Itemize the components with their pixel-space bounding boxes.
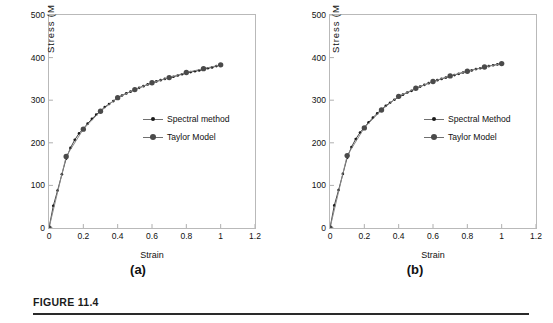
- legend-a: Spectral method Taylor Model: [143, 115, 230, 151]
- legend-item-spectral-a: Spectral method: [143, 115, 230, 124]
- x-tick-a-6: 1.2: [249, 232, 261, 240]
- x-axis-title-b: Strain: [421, 250, 445, 260]
- legend-marker-small-dot-icon: [424, 115, 444, 124]
- figure-caption: FIGURE 11.4: [33, 296, 99, 308]
- legend-label-spectral-b: Spectral Method: [448, 115, 511, 124]
- y-tick-a-0: 0: [40, 224, 45, 232]
- legend-label-spectral-a: Spectral method: [167, 115, 230, 124]
- legend-label-taylor-b: Taylor Model: [448, 133, 497, 142]
- y-tick-a-4: 400: [31, 54, 45, 62]
- sub-caption-a: (a): [130, 262, 146, 277]
- legend-marker-large-dot-icon: [424, 133, 444, 142]
- y-tick-b-2: 200: [312, 139, 326, 147]
- y-tick-a-5: 500: [31, 11, 45, 19]
- legend-marker-small-dot-icon: [143, 115, 163, 124]
- x-tick-a-0: 0: [47, 232, 52, 240]
- figure-11-4: Stress (M P a) 0 100 200 300 400 500 0 0…: [0, 0, 553, 323]
- figure-caption-area: FIGURE 11.4: [0, 296, 553, 323]
- x-tick-b-6: 1.2: [530, 232, 542, 240]
- y-tick-b-3: 300: [312, 96, 326, 104]
- legend-item-taylor-b: Taylor Model: [424, 133, 511, 142]
- legend-label-taylor-a: Taylor Model: [167, 133, 216, 142]
- caption-divider: [33, 313, 529, 315]
- x-axis-title-a: Strain: [140, 250, 164, 260]
- x-tick-b-4: 0.8: [461, 232, 473, 240]
- legend-item-spectral-b: Spectral Method: [424, 115, 511, 124]
- x-tick-b-0: 0: [328, 232, 333, 240]
- plot-area-a: Stress (M P a) 0 100 200 300 400 500 0 0…: [48, 14, 256, 229]
- y-tick-a-3: 300: [31, 96, 45, 104]
- x-tick-b-3: 0.6: [427, 232, 439, 240]
- x-tick-b-5: 1: [499, 232, 504, 240]
- x-tick-a-4: 0.8: [180, 232, 192, 240]
- y-tick-a-2: 200: [31, 139, 45, 147]
- x-tick-a-3: 0.6: [146, 232, 158, 240]
- y-tick-b-4: 400: [312, 54, 326, 62]
- y-tick-a-1: 100: [31, 181, 45, 189]
- panel-container: Stress (M P a) 0 100 200 300 400 500 0 0…: [0, 0, 553, 292]
- x-tick-a-2: 0.4: [112, 232, 124, 240]
- sub-caption-b: (b): [407, 262, 424, 277]
- legend-item-taylor-a: Taylor Model: [143, 133, 230, 142]
- x-tick-a-5: 1: [218, 232, 223, 240]
- y-tick-b-0: 0: [321, 224, 326, 232]
- chart-panel-b: Stress (M P a) 0 100 200 300 400 500 0 0…: [277, 0, 553, 292]
- legend-marker-large-dot-icon: [143, 133, 163, 142]
- x-tick-b-2: 0.4: [393, 232, 405, 240]
- y-tick-b-1: 100: [312, 181, 326, 189]
- plot-area-b: Stress (M P a) 0 100 200 300 400 500 0 0…: [329, 14, 537, 229]
- x-tick-b-1: 0.2: [358, 232, 370, 240]
- x-tick-a-1: 0.2: [77, 232, 89, 240]
- legend-b: Spectral Method Taylor Model: [424, 115, 511, 151]
- y-tick-b-5: 500: [312, 11, 326, 19]
- chart-panel-a: Stress (M P a) 0 100 200 300 400 500 0 0…: [0, 0, 276, 292]
